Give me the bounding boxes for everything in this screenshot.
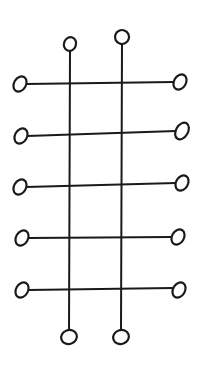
bottom-node-1-circle-icon	[59, 328, 79, 347]
vertical-line-1	[69, 51, 70, 330]
ladder-grid-diagram	[0, 0, 210, 370]
right-node-4-circle-icon	[169, 227, 187, 247]
vertical-line-2	[121, 44, 122, 330]
top-node-1-circle-icon	[62, 35, 78, 52]
right-node-1-circle-icon	[171, 72, 189, 92]
right-node-2-circle-icon	[172, 120, 191, 142]
horizontal-line-2	[27, 131, 176, 136]
horizontal-line-5	[28, 288, 173, 290]
right-node-5-circle-icon	[170, 280, 188, 300]
right-node-3-circle-icon	[173, 173, 191, 193]
connector-lines	[26, 44, 176, 330]
horizontal-line-3	[26, 183, 176, 187]
bottom-node-2-circle-icon	[111, 328, 131, 347]
left-node-2-circle-icon	[12, 126, 30, 146]
left-node-3-circle-icon	[11, 177, 29, 197]
horizontal-line-1	[26, 82, 174, 84]
top-node-2-circle-icon	[113, 28, 131, 46]
left-node-4-circle-icon	[13, 228, 31, 248]
horizontal-line-4	[28, 237, 172, 238]
left-node-1-circle-icon	[11, 74, 29, 94]
left-node-5-circle-icon	[13, 280, 31, 300]
